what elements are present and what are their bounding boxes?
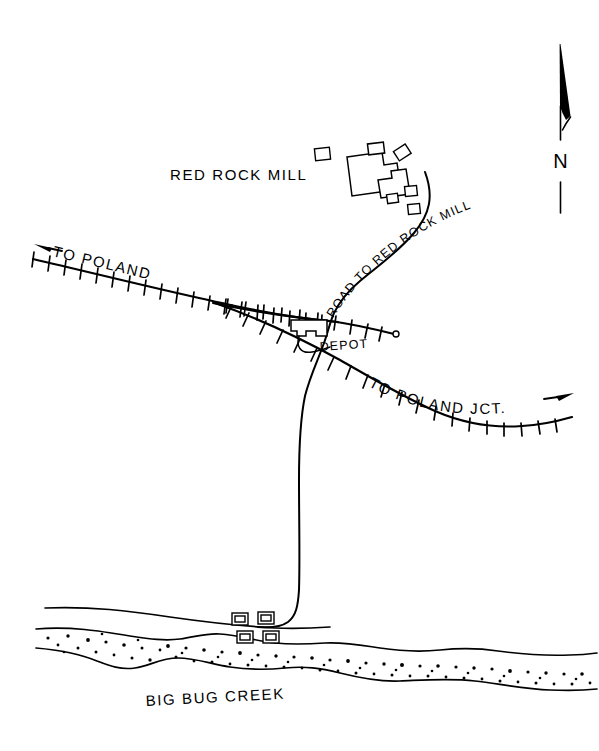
siding-bumper	[393, 331, 399, 337]
creek-building-3	[237, 631, 253, 643]
red-rock-mill-label: RED ROCK MILL	[170, 166, 308, 183]
mill-building-annex-c	[408, 203, 421, 214]
historical-railroad-map: N RED ROCK MILL ROAD TO RED ROCK MILL	[0, 0, 599, 751]
north-label: N	[553, 150, 567, 172]
mill-building-outlier	[314, 147, 330, 161]
map-canvas: N RED ROCK MILL ROAD TO RED ROCK MILL	[0, 0, 599, 751]
creek-building-4	[263, 631, 279, 643]
creek-building-1	[232, 613, 248, 625]
creek-building-2	[258, 612, 274, 624]
mill-building-top-annex	[367, 142, 384, 155]
mill-building-annex-b	[405, 185, 418, 196]
map-background	[0, 0, 599, 751]
mill-building-annex-a	[386, 193, 398, 203]
